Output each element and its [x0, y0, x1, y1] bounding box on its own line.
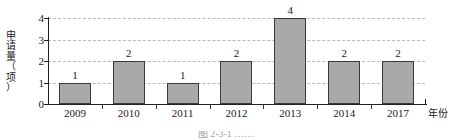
plot-area: 1212422 [48, 18, 425, 104]
x-axis-line [48, 104, 427, 105]
bar-value-label: 4 [288, 5, 294, 16]
bar-value-label: 2 [126, 48, 132, 59]
x-axis-end-tick [425, 99, 426, 105]
figure-caption-text: 图 2-3-1 …… [0, 131, 452, 139]
bar-value-label: 2 [234, 48, 240, 59]
x-axis-tick-label: 2012 [226, 107, 248, 120]
y-axis-title-char: 请 [6, 41, 16, 52]
bar-chart-figure: 申 请 量 （ 项 ） 43210 1212422 20092010201120… [0, 0, 452, 139]
bar-slot: 2 [317, 18, 371, 104]
bar[interactable] [59, 83, 91, 105]
y-axis-title: 申 请 量 （ 项 ） [2, 16, 20, 108]
x-axis-tick-labels: 2009201020112012201320142017 [48, 107, 425, 121]
x-axis-tick-label: 2011 [172, 107, 194, 120]
y-axis-title-char: （ [6, 62, 16, 73]
x-axis-tick-label: 2010 [118, 107, 140, 120]
bar-slot: 4 [263, 18, 317, 104]
x-axis-title: 年份 [428, 107, 448, 120]
bar-slot: 2 [210, 18, 264, 104]
bar[interactable] [328, 61, 360, 104]
y-axis-tick-label: 1 [24, 78, 44, 89]
bar[interactable] [382, 61, 414, 104]
bar-slot: 1 [156, 18, 210, 104]
bar[interactable] [220, 61, 252, 104]
y-axis-tick-label: 0 [24, 99, 44, 110]
bar-value-label: 1 [180, 70, 186, 81]
bar-slot: 2 [102, 18, 156, 104]
y-axis-tick-label: 3 [24, 35, 44, 46]
y-axis-tick [44, 104, 49, 105]
bar-value-label: 2 [341, 48, 347, 59]
y-axis-tick-labels: 43210 [24, 18, 44, 104]
figure-caption: 图 2-3-1 …… [0, 131, 452, 139]
bar-value-label: 1 [72, 70, 78, 81]
bar-value-label: 2 [395, 48, 401, 59]
x-axis-tick-label: 2014 [333, 107, 355, 120]
y-axis-tick-label: 4 [24, 13, 44, 24]
bar-slot: 2 [371, 18, 425, 104]
bar-series: 1212422 [48, 18, 425, 104]
bar[interactable] [113, 61, 145, 104]
x-axis-tick-label: 2017 [387, 107, 409, 120]
x-axis-tick-label: 2013 [279, 107, 301, 120]
bar[interactable] [167, 83, 199, 105]
x-axis-tick-label: 2009 [64, 107, 86, 120]
bar[interactable] [274, 18, 306, 104]
bar-slot: 1 [48, 18, 102, 104]
y-axis-title-char: ） [6, 83, 16, 94]
y-axis-tick-label: 2 [24, 56, 44, 67]
